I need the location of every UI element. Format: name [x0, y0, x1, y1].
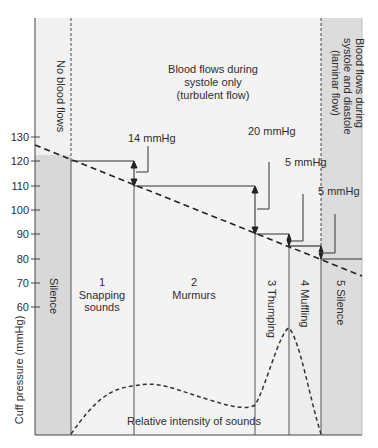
svg-text:(turbulent flow): (turbulent flow)	[177, 89, 250, 101]
svg-text:60: 60	[17, 301, 29, 313]
svg-text:2: 2	[191, 276, 197, 288]
svg-text:Blood flows during: Blood flows during	[354, 38, 366, 128]
svg-text:70: 70	[17, 277, 29, 289]
phase-4-label: 4 Muffling	[299, 280, 311, 328]
svg-text:systole and diastole: systole and diastole	[342, 38, 354, 135]
y-tick-labels: 130 120 110 100 90 80 70 60	[11, 131, 29, 313]
top-left-label: No blood flows	[55, 60, 67, 133]
svg-text:systole only: systole only	[184, 76, 242, 88]
svg-text:120: 120	[11, 155, 29, 167]
svg-text:80: 80	[17, 253, 29, 265]
svg-text:Snapping: Snapping	[79, 289, 126, 301]
svg-text:sounds: sounds	[84, 301, 120, 313]
phase-silence-left: Silence	[48, 278, 60, 314]
drop-label-14: 14 mmHg	[128, 132, 176, 144]
svg-text:No blood flows: No blood flows	[55, 60, 67, 133]
phase-5-label: 5 Silence	[335, 280, 347, 325]
svg-text:(laminar flow): (laminar flow)	[330, 50, 342, 116]
svg-text:110: 110	[11, 180, 29, 192]
korotkoff-diagram: 130 120 110 100 90 80 70 60 Cuff pressur…	[0, 0, 378, 448]
drop-label-5a: 5 mmHg	[285, 156, 327, 168]
svg-text:Murmurs: Murmurs	[172, 289, 216, 301]
svg-text:Blood flows during: Blood flows during	[168, 63, 258, 75]
y-axis-label: Cuff pressure (mmHg)	[13, 316, 25, 425]
svg-text:100: 100	[11, 204, 29, 216]
phase-3-label: 3 Thumping	[266, 280, 278, 338]
drop-label-20: 20 mmHg	[248, 125, 296, 137]
svg-text:90: 90	[17, 228, 29, 240]
intensity-label: Relative intensity of sounds	[127, 415, 261, 427]
svg-text:1: 1	[99, 276, 105, 288]
svg-text:130: 130	[11, 131, 29, 143]
drop-label-5b: 5 mmHg	[318, 185, 360, 197]
